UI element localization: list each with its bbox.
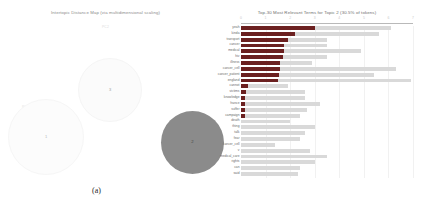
bar-row[interactable]: france	[241, 102, 413, 106]
bar-topic-frequency	[241, 38, 288, 42]
topic-bubble-1[interactable]: 1	[8, 99, 84, 175]
term-label[interactable]: talk	[234, 131, 239, 134]
term-label[interactable]: cancer_cell	[223, 67, 240, 70]
panel-a-caption: (a)	[92, 186, 101, 195]
bar-row[interactable]: illness	[241, 61, 413, 65]
bar-topic-frequency	[241, 67, 280, 71]
bar-overall-frequency	[241, 143, 275, 147]
bar-row[interactable]: knowledge	[241, 96, 413, 100]
x-axis-line	[241, 23, 413, 24]
bar-row[interactable]: england	[241, 79, 413, 83]
bar-overall-frequency	[241, 102, 320, 106]
bar-row[interactable]: transport	[241, 38, 413, 42]
bar-overall-frequency	[241, 108, 307, 112]
term-label[interactable]: v	[238, 149, 240, 152]
bar-row[interactable]: medical_care	[241, 155, 413, 159]
bar-overall-frequency	[241, 131, 305, 135]
bar-row[interactable]: suffer	[241, 108, 413, 112]
bar-overall-frequency	[241, 84, 288, 88]
bar-row[interactable]: cancer_cell	[241, 67, 413, 71]
bar-topic-frequency	[241, 96, 245, 100]
bar-topic-frequency	[241, 84, 248, 88]
term-label[interactable]: suffer	[231, 108, 239, 111]
term-label[interactable]: medical	[228, 50, 239, 53]
bar-row[interactable]: yeah	[241, 26, 413, 30]
x-tick-label: 1	[265, 16, 267, 20]
topic-bubble-1-label: 1	[45, 135, 47, 139]
bar-overall-frequency	[241, 96, 305, 100]
bar-topic-frequency	[241, 49, 284, 53]
bar-overall-frequency	[241, 160, 315, 164]
bar-overall-frequency	[241, 137, 300, 141]
bar-row[interactable]: hiv	[241, 55, 413, 59]
x-tick-label: 0	[240, 16, 242, 20]
figure-container: Intertopic Distance Map (via multidimens…	[0, 0, 423, 211]
intertopic-map-title: Intertopic Distance Map (via multidimens…	[0, 10, 211, 15]
term-label[interactable]: rights	[231, 161, 239, 164]
term-label[interactable]: can	[234, 167, 239, 170]
term-label[interactable]: illness	[230, 61, 239, 64]
bar-row[interactable]: v	[241, 149, 413, 153]
term-label[interactable]: france	[230, 102, 239, 105]
bar-overall-frequency	[241, 149, 310, 153]
term-label[interactable]: said	[233, 172, 239, 175]
x-tick-label: 6	[387, 16, 389, 20]
pc2-axis-label: PC2	[0, 25, 211, 29]
bar-topic-frequency	[241, 102, 245, 106]
term-label[interactable]: england	[228, 79, 240, 82]
bar-row[interactable]: campaign	[241, 114, 413, 118]
term-label[interactable]: transport	[226, 38, 239, 41]
bar-topic-frequency	[241, 73, 279, 77]
bar-row[interactable]: death	[241, 120, 413, 124]
bar-row[interactable]: can	[241, 166, 413, 170]
term-label[interactable]: knowledge	[224, 96, 240, 99]
bar-row[interactable]: cancer_cell	[241, 143, 413, 147]
bar-row[interactable]: medical	[241, 49, 413, 53]
bar-topic-frequency	[241, 26, 315, 30]
bar-row[interactable]: rights	[241, 160, 413, 164]
bar-row[interactable]: said	[241, 172, 413, 176]
bar-row[interactable]: cannot	[241, 84, 413, 88]
bar-overall-frequency	[241, 125, 315, 129]
term-label[interactable]: cancer	[230, 44, 240, 47]
bar-topic-frequency	[241, 44, 284, 48]
topic-bubble-2-label: 2	[191, 140, 193, 144]
bar-topic-frequency	[241, 61, 280, 65]
bar-overall-frequency	[241, 166, 300, 170]
term-label[interactable]: victims	[229, 91, 239, 94]
bar-overall-frequency	[241, 120, 290, 124]
bar-overall-frequency	[241, 155, 327, 159]
x-tick-label: 4	[338, 16, 340, 20]
term-label[interactable]: cancer_patient	[218, 73, 240, 76]
bar-row[interactable]: talk	[241, 131, 413, 135]
bar-topic-frequency	[241, 114, 245, 118]
bar-overall-frequency	[241, 90, 305, 94]
term-label[interactable]: kinda	[232, 32, 240, 35]
term-label[interactable]: cancer_cell	[223, 143, 240, 146]
term-label[interactable]: death	[231, 120, 239, 123]
bar-row[interactable]: cancer_patient	[241, 73, 413, 77]
bar-row[interactable]: kinda	[241, 32, 413, 36]
bar-row[interactable]: fear	[241, 137, 413, 141]
x-tick-label: 2	[289, 16, 291, 20]
topic-bubble-3[interactable]: 3	[78, 58, 142, 122]
x-tick-label: 3	[314, 16, 316, 20]
term-label[interactable]: yeah	[232, 26, 239, 29]
bar-overall-frequency	[241, 172, 298, 176]
bar-overall-frequency	[241, 114, 300, 118]
term-label[interactable]: fear	[234, 137, 240, 140]
term-label[interactable]: thing	[232, 126, 239, 129]
bar-topic-frequency	[241, 108, 245, 112]
term-label[interactable]: hiv	[235, 55, 239, 58]
bar-row[interactable]: cancer	[241, 44, 413, 48]
term-label[interactable]: medical_care	[220, 155, 240, 158]
term-label[interactable]: campaign	[225, 114, 239, 117]
bar-row[interactable]: victims	[241, 90, 413, 94]
term-label[interactable]: cannot	[230, 85, 240, 88]
bar-topic-frequency	[241, 79, 278, 83]
panel-intertopic-distance-map: Intertopic Distance Map (via multidimens…	[0, 0, 211, 211]
x-tick-label: 7	[412, 16, 414, 20]
x-tick-label: 5	[363, 16, 365, 20]
bar-row[interactable]: thing	[241, 125, 413, 129]
bar-topic-frequency	[241, 32, 295, 36]
